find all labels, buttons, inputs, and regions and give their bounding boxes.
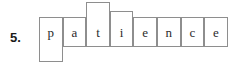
letter-cell[interactable]: e [204, 17, 228, 47]
cell-extension-down-p [39, 46, 63, 62]
letter-cell-text: e [213, 26, 219, 39]
letter-cell[interactable]: t [86, 17, 110, 47]
cell-seam [40, 46, 62, 47]
letter-cell[interactable]: n [157, 17, 181, 47]
letter-cell-text: i [120, 26, 124, 39]
letter-cell[interactable]: a [63, 17, 87, 47]
letter-grid: patience [0, 0, 235, 68]
cell-seam [111, 17, 133, 18]
letter-cell-text: t [96, 26, 100, 39]
cell-seam [87, 17, 109, 18]
letter-cell[interactable]: p [39, 17, 63, 47]
letter-cell-text: a [72, 26, 78, 39]
letter-cell[interactable]: c [181, 17, 205, 47]
letter-cell-text: e [142, 26, 148, 39]
letter-cell-text: c [190, 26, 196, 39]
cell-extension-up-t [86, 2, 110, 18]
puzzle-container: 5. patience [0, 0, 235, 68]
letter-cell-text: p [48, 26, 55, 39]
letter-cell[interactable]: e [133, 17, 157, 47]
letter-cell[interactable]: i [110, 17, 134, 47]
letter-cell-text: n [166, 26, 173, 39]
